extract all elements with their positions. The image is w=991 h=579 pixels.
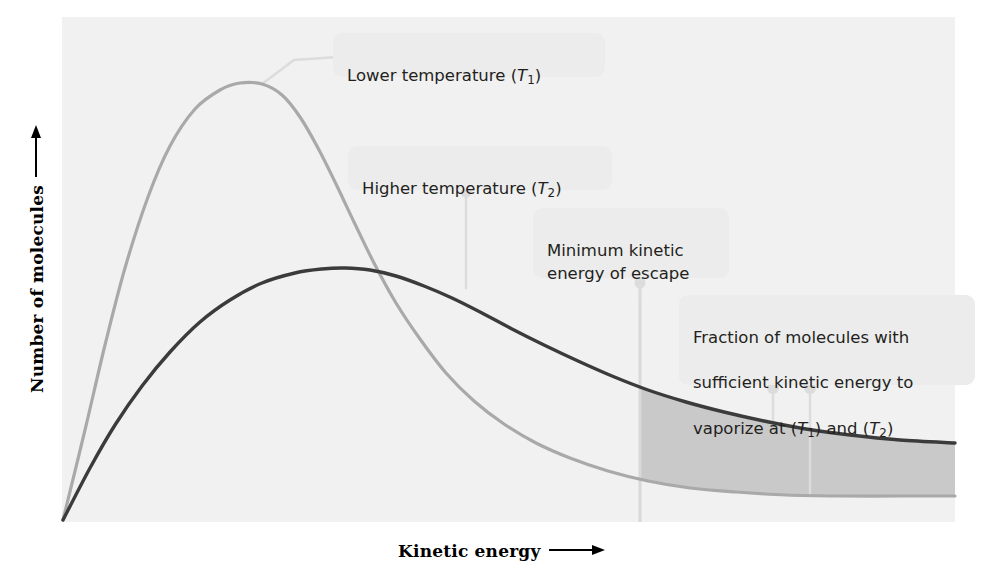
- callout-fraction-line3-c: ): [887, 419, 893, 438]
- chart-figure: Lower temperature (T1) Higher temperatur…: [0, 0, 991, 579]
- symbol-t-subscript: 1: [527, 72, 535, 86]
- x-axis-label-text: Kinetic energy: [398, 541, 541, 561]
- y-axis-label-text: Number of molecules: [27, 185, 47, 393]
- callout-lower-text-b: ): [535, 66, 541, 85]
- callout-fraction-line2: sufficient kinetic energy to: [693, 373, 913, 392]
- callout-lower-text-a: Lower temperature (: [347, 66, 517, 85]
- symbol-t1-subscript: 1: [807, 425, 815, 439]
- symbol-t: T: [517, 66, 527, 85]
- symbol-t2: T: [869, 419, 879, 438]
- callout-fraction-line1: Fraction of molecules with: [693, 328, 909, 347]
- callout-fraction-line3-b: ) and (: [815, 419, 869, 438]
- symbol-t1: T: [797, 419, 807, 438]
- callout-fraction-line3-a: vaporize at (: [693, 419, 797, 438]
- callout-higher-temperature: Higher temperature (T2): [348, 146, 612, 190]
- callout-higher-text-b: ): [555, 179, 561, 198]
- symbol-t: T: [538, 179, 548, 198]
- callout-minimum-energy: Minimum kinetic energy of escape: [533, 208, 729, 278]
- callout-higher-text-a: Higher temperature (: [362, 179, 538, 198]
- y-axis-title: Number of molecules: [27, 163, 47, 393]
- callout-fraction: Fraction of molecules with sufficient ki…: [679, 295, 975, 385]
- up-arrow-icon: [31, 119, 41, 177]
- x-axis-title: Kinetic energy: [398, 541, 607, 561]
- callout-minimum-energy-text: Minimum kinetic energy of escape: [547, 241, 689, 283]
- symbol-t2-subscript: 2: [879, 425, 887, 439]
- callout-lower-temperature: Lower temperature (T1): [333, 33, 605, 77]
- right-arrow-icon: [549, 545, 607, 555]
